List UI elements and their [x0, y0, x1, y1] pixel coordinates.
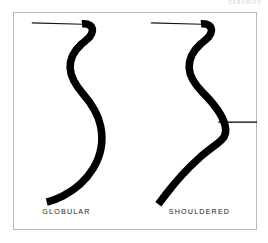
running-head: CERAMICS: [229, 0, 262, 6]
shoulder-annotation-arrow-icon: [216, 116, 258, 128]
plate-globular: GLOBULAR: [14, 13, 135, 229]
vessel-profile-shouldered-icon: [158, 24, 225, 205]
plate-label-shouldered: SHOULDERED: [135, 207, 256, 216]
rim-line-icon: [151, 23, 202, 24]
rim-line-icon: [32, 23, 83, 24]
globular-profile-drawing: [14, 13, 135, 229]
vessel-profile-globular-icon: [47, 24, 102, 202]
plate-label-globular: GLOBULAR: [14, 207, 135, 216]
